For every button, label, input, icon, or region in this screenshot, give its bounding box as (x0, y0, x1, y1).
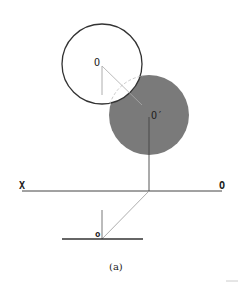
diagonal-line (102, 191, 149, 239)
label-bottom-point: o (95, 229, 100, 239)
label-center-shifted: O′ (151, 110, 163, 121)
diagram-canvas: O O′ X O o (a) (0, 0, 239, 286)
label-axis-right: O (219, 180, 225, 191)
label-center-top: O (94, 57, 100, 68)
figure-caption: (a) (109, 261, 123, 272)
diagram-figure: O O′ X O o (a) (0, 0, 239, 286)
label-axis-left: X (19, 180, 25, 191)
